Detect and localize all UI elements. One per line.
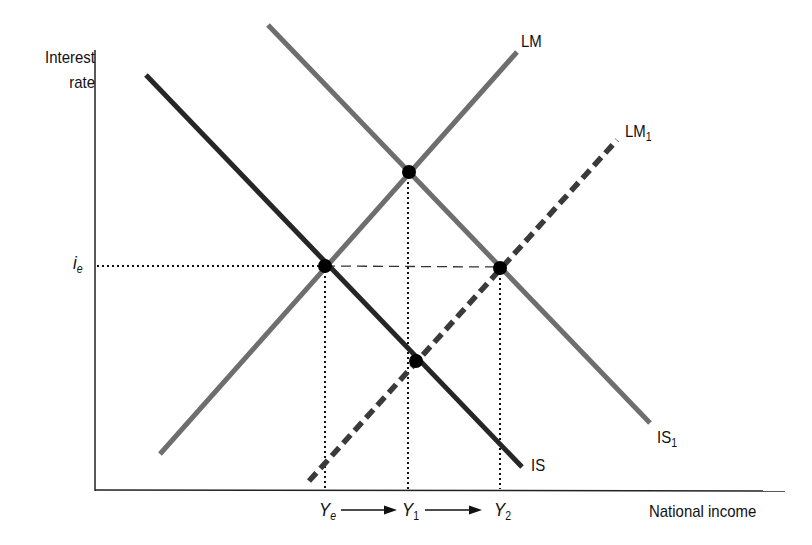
- y2-sub: 2: [505, 509, 511, 523]
- is1-label-text: IS: [657, 428, 671, 447]
- ie-tick-label: ie: [73, 253, 83, 273]
- x-axis: [95, 490, 785, 491]
- y-axis-label: Interest rate: [20, 48, 95, 93]
- y1-sub: 1: [413, 509, 419, 523]
- lm1-curve: [309, 140, 617, 481]
- y1-tick-label: Y1: [402, 500, 419, 520]
- is-label-text: IS: [531, 456, 545, 475]
- equilibrium-point-is1-lm1: [493, 261, 507, 275]
- y-axis-label-line2: rate: [29, 73, 95, 93]
- is-label: IS: [531, 456, 545, 476]
- y1-main: Y: [402, 499, 413, 520]
- is1-label: IS1: [657, 428, 677, 448]
- lm1-label-text: LM: [625, 122, 646, 141]
- is1-label-sub: 1: [671, 436, 677, 450]
- is-lm-diagram: [0, 0, 812, 545]
- arrow-ye-to-y1: [341, 506, 397, 515]
- equilibrium-point-is1-lm: [402, 165, 416, 179]
- ie-sub: e: [77, 262, 83, 276]
- ye-tick-label: Ye: [319, 500, 336, 520]
- arrow-y1-to-y2: [425, 506, 482, 515]
- lm-curve: [160, 52, 517, 454]
- lm1-label: LM1: [625, 122, 652, 142]
- lm-label-text: LM: [521, 32, 542, 51]
- ie-guide-dashed: [325, 266, 500, 267]
- y2-tick-label: Y2: [494, 500, 511, 520]
- lm1-label-sub: 1: [646, 130, 652, 144]
- y2-main: Y: [494, 499, 505, 520]
- is1-curve: [268, 25, 650, 423]
- lm-label: LM: [521, 32, 542, 52]
- ye-sub: e: [330, 509, 336, 523]
- x-axis-label: National income: [649, 502, 756, 522]
- ye-main: Y: [319, 499, 330, 520]
- equilibrium-point-is-lm: [318, 259, 332, 273]
- equilibrium-point-is-lm1: [409, 354, 423, 368]
- y-axis-label-line1: Interest: [29, 48, 95, 68]
